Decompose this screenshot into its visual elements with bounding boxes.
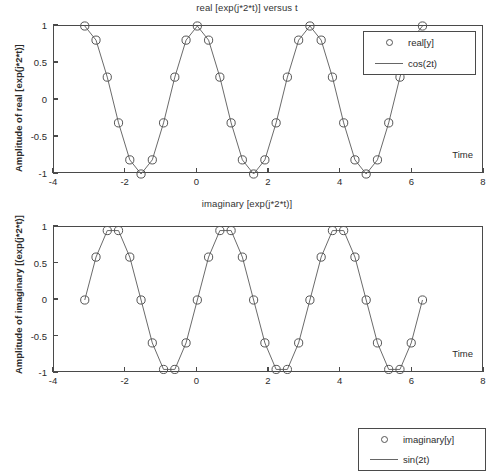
x-tick-mark — [52, 168, 53, 173]
y-tick-mark — [53, 335, 58, 336]
x-tick-mark — [267, 367, 268, 372]
y-tick-label: 0 — [21, 294, 47, 305]
x-tick-label: -4 — [38, 176, 68, 187]
x-tick-mark — [339, 168, 340, 173]
x-tick-mark — [196, 367, 197, 372]
legend-entry-cos2t: cos(2t) — [364, 53, 475, 74]
legend-entry-imaginary-y: imaginary[y] — [359, 429, 485, 450]
x-tick-mark — [482, 168, 483, 173]
x-tick-mark — [124, 367, 125, 372]
y-tick-mark — [53, 135, 58, 136]
y-tick-label: 1 — [21, 221, 47, 232]
data-line — [85, 231, 423, 370]
plot-area-imaginary[interactable]: Time — [53, 226, 483, 372]
panel-imaginary: imaginary [exp(j*2*t)] Amplitude of imag… — [0, 196, 494, 401]
legend-label-sin2t: sin(2t) — [403, 454, 429, 465]
legend-real[interactable]: real[y] cos(2t) — [363, 31, 476, 75]
y-tick-label: 0.5 — [21, 257, 47, 268]
legend-entry-sin2t: sin(2t) — [359, 450, 485, 471]
chart-title-imaginary: imaginary [exp(j*2*t)] — [0, 198, 494, 209]
x-tick-label: 4 — [325, 375, 355, 386]
y-tick-mark — [53, 61, 58, 62]
chart-title-real: real [exp(j*2*t)] versus t — [0, 2, 494, 13]
x-axis-label-real: Time — [452, 149, 473, 160]
x-tick-mark — [196, 168, 197, 173]
y-tick-label: -0.5 — [21, 131, 47, 142]
x-tick-label: -2 — [110, 176, 140, 187]
legend-label-imaginary-y: imaginary[y] — [403, 434, 454, 445]
legend-entry-real-y: real[y] — [364, 32, 475, 53]
circle-marker-icon — [365, 436, 403, 443]
x-tick-label: 4 — [325, 176, 355, 187]
x-tick-label: -4 — [38, 375, 68, 386]
y-tick-mark — [53, 298, 58, 299]
y-tick-label: 0.5 — [21, 57, 47, 68]
x-tick-mark — [267, 168, 268, 173]
x-tick-label: 6 — [396, 176, 426, 187]
y-tick-label: 1 — [21, 20, 47, 31]
x-tick-mark — [339, 367, 340, 372]
series-plot-imaginary — [54, 227, 484, 373]
x-axis-label-imaginary: Time — [452, 348, 473, 359]
y-tick-mark — [53, 172, 58, 173]
x-tick-mark — [52, 367, 53, 372]
y-tick-mark — [53, 98, 58, 99]
x-tick-mark — [411, 367, 412, 372]
legend-label-real-y: real[y] — [408, 37, 434, 48]
circle-marker-icon — [370, 39, 408, 46]
y-tick-label: -0.5 — [21, 330, 47, 341]
x-tick-label: 8 — [468, 176, 494, 187]
x-tick-label: 0 — [181, 176, 211, 187]
x-tick-label: 8 — [468, 375, 494, 386]
x-tick-label: 6 — [396, 375, 426, 386]
legend-label-cos2t: cos(2t) — [408, 58, 437, 69]
x-tick-label: 0 — [181, 375, 211, 386]
x-tick-mark — [482, 367, 483, 372]
legend-imaginary[interactable]: imaginary[y] sin(2t) — [358, 428, 486, 471]
panel-real: real [exp(j*2*t)] versus t Amplitude of … — [0, 0, 494, 196]
x-tick-label: -2 — [110, 375, 140, 386]
x-tick-label: 2 — [253, 375, 283, 386]
x-tick-label: 2 — [253, 176, 283, 187]
y-tick-label: 0 — [21, 94, 47, 105]
y-tick-mark — [53, 371, 58, 372]
solid-line-icon — [370, 63, 408, 64]
y-tick-mark — [53, 225, 58, 226]
x-tick-mark — [124, 168, 125, 173]
solid-line-icon — [365, 459, 403, 460]
y-tick-mark — [53, 262, 58, 263]
y-tick-mark — [53, 24, 58, 25]
x-tick-mark — [411, 168, 412, 173]
